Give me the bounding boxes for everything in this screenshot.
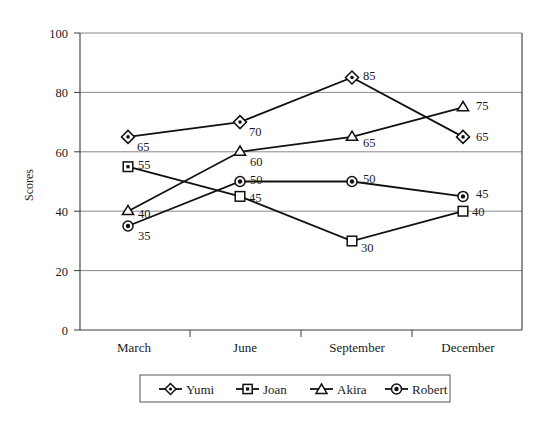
- x-tick-labels: March June September December: [117, 340, 495, 355]
- legend-label-joan: Joan: [263, 382, 287, 397]
- y-tick-label-0: 0: [62, 324, 68, 338]
- chart-canvas: 100 80 60 40 20 0 Scores March June Sept…: [0, 0, 547, 430]
- series-line-yumi: [128, 78, 463, 137]
- point-label-akira-june: 60: [250, 155, 263, 169]
- marker-yumi-june: [234, 116, 247, 129]
- point-label-akira-september: 65: [363, 136, 376, 150]
- marker-robert-june: [235, 177, 245, 187]
- y-tick-label-80: 80: [56, 86, 69, 100]
- point-label-yumi-june: 70: [249, 125, 262, 139]
- marker-yumi-december: [457, 130, 470, 143]
- series-line-joan: [128, 167, 463, 241]
- y-axis-title: Scores: [22, 169, 36, 201]
- point-label-robert-december: 45: [476, 187, 489, 201]
- point-label-yumi-march: 65: [137, 140, 150, 154]
- y-tick-label-40: 40: [56, 205, 69, 219]
- series-line-akira: [128, 107, 463, 211]
- x-tick-label-june: June: [233, 340, 257, 355]
- y-tick-labels: 100 80 60 40 20 0: [49, 27, 68, 338]
- y-tick-label-60: 60: [56, 146, 69, 160]
- legend-label-akira: Akira: [337, 382, 367, 397]
- marker-robert-september: [347, 177, 357, 187]
- marker-robert-march: [123, 221, 133, 231]
- point-label-robert-september: 50: [363, 172, 376, 186]
- legend-label-robert: Robert: [412, 382, 448, 397]
- marker-joan-march: [123, 162, 133, 172]
- x-tick-label-december: December: [441, 340, 495, 355]
- point-label-joan-december: 40: [472, 205, 485, 219]
- point-label-yumi-september: 85: [363, 69, 376, 83]
- point-label-robert-march: 35: [138, 229, 151, 243]
- legend-label-yumi: Yumi: [186, 382, 215, 397]
- x-tick-marks: [190, 330, 412, 337]
- point-label-akira-december: 75: [476, 99, 489, 113]
- series-yumi: 65 70 85 65: [122, 69, 489, 154]
- marker-joan-september: [347, 236, 357, 246]
- series-akira: 40 60 65 75: [122, 99, 488, 221]
- marker-yumi-september: [346, 71, 359, 84]
- marker-joan-december: [458, 206, 468, 216]
- x-tick-label-september: September: [329, 340, 385, 355]
- y-tick-label-100: 100: [49, 27, 68, 41]
- point-label-joan-march: 55: [138, 158, 151, 172]
- y-tick-label-20: 20: [56, 265, 69, 279]
- y-tick-marks: [74, 33, 80, 330]
- marker-akira-december: [457, 102, 468, 111]
- chart-legend: Yumi Joan Akira Robert: [140, 375, 450, 402]
- marker-joan-june: [235, 192, 245, 202]
- line-chart: 100 80 60 40 20 0 Scores March June Sept…: [0, 0, 547, 430]
- point-label-yumi-december: 65: [476, 130, 489, 144]
- marker-yumi-march: [122, 130, 135, 143]
- point-label-joan-september: 30: [361, 241, 374, 255]
- point-label-joan-june: 45: [249, 191, 262, 205]
- series-robert: 35 50 50 45: [123, 172, 489, 243]
- marker-robert-december: [458, 191, 468, 201]
- point-label-robert-june: 50: [250, 173, 263, 187]
- x-tick-label-march: March: [117, 340, 151, 355]
